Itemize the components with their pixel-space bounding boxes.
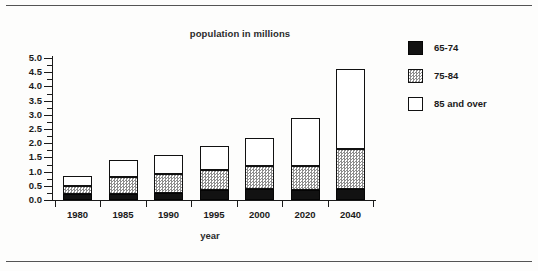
y-axis-tick bbox=[44, 115, 52, 116]
y-axis-tick bbox=[44, 186, 52, 187]
bar-segment-65-74 bbox=[291, 190, 320, 200]
y-axis-tick bbox=[44, 129, 52, 130]
y-axis-minor-tick bbox=[47, 122, 52, 123]
x-axis-tick-label: 1990 bbox=[146, 209, 192, 220]
x-axis-tick-label: 1980 bbox=[55, 209, 101, 220]
bar-segment-85-and-over bbox=[154, 155, 183, 175]
legend-item: 65-74 bbox=[408, 40, 532, 58]
y-axis-tick bbox=[44, 101, 52, 102]
bar-segment-65-74 bbox=[245, 189, 274, 200]
x-axis-tick bbox=[191, 200, 192, 207]
x-axis-tick bbox=[237, 200, 238, 207]
x-axis-tick bbox=[328, 200, 329, 207]
bar-segment-85-and-over bbox=[336, 69, 365, 149]
bar-segment-85-and-over bbox=[63, 176, 92, 186]
y-axis-tick-label: 2.0 bbox=[16, 138, 42, 148]
x-axis-tick bbox=[282, 200, 283, 207]
x-axis-tick-label: 2000 bbox=[237, 209, 283, 220]
y-axis-tick bbox=[44, 143, 52, 144]
bar-segment-85-and-over bbox=[245, 138, 274, 166]
legend-label: 85 and over bbox=[434, 98, 487, 109]
bar-segment-75-84 bbox=[63, 186, 92, 195]
bar-segment-75-84 bbox=[245, 166, 274, 189]
legend-label: 75-84 bbox=[434, 70, 458, 81]
y-axis-minor-tick bbox=[47, 65, 52, 66]
bottom-divider-rule bbox=[6, 261, 532, 262]
y-axis-minor-tick bbox=[47, 150, 52, 151]
chart-title: population in millions bbox=[140, 28, 340, 39]
y-axis-line bbox=[52, 56, 53, 201]
y-axis-tick-label: 4.0 bbox=[16, 81, 42, 91]
y-axis-tick-label: 1.0 bbox=[16, 167, 42, 177]
y-axis-tick bbox=[44, 200, 52, 201]
bar-segment-85-and-over bbox=[200, 146, 229, 170]
bar-1980 bbox=[63, 0, 92, 271]
legend-label: 65-74 bbox=[434, 42, 458, 53]
y-axis-minor-tick bbox=[47, 165, 52, 166]
y-axis-tick bbox=[44, 157, 52, 158]
bar-segment-65-74 bbox=[336, 189, 365, 200]
y-axis-tick-label: 3.5 bbox=[16, 96, 42, 106]
bar-segment-75-84 bbox=[109, 177, 138, 194]
top-divider-rule bbox=[6, 5, 532, 6]
bar-segment-85-and-over bbox=[109, 160, 138, 177]
y-axis-tick-label: 5.0 bbox=[16, 53, 42, 63]
x-axis-tick bbox=[100, 200, 101, 207]
bar-segment-65-74 bbox=[63, 194, 92, 200]
x-axis-tick-label: 1995 bbox=[191, 209, 237, 220]
legend-swatch-icon bbox=[408, 41, 423, 55]
chart-page: population in millions 0.00.51.01.52.02.… bbox=[0, 0, 538, 271]
bar-2020 bbox=[291, 0, 320, 271]
bar-segment-65-74 bbox=[154, 193, 183, 200]
x-axis-tick-label: 2020 bbox=[282, 209, 328, 220]
y-axis-tick bbox=[44, 58, 52, 59]
x-axis-tick bbox=[373, 200, 374, 207]
bar-segment-75-84 bbox=[291, 166, 320, 190]
y-axis-tick-label: 0.5 bbox=[16, 181, 42, 191]
y-axis-tick-label: 2.5 bbox=[16, 124, 42, 134]
x-axis-title: year bbox=[150, 230, 270, 241]
y-axis-minor-tick bbox=[47, 136, 52, 137]
x-axis-tick-label: 2040 bbox=[328, 209, 374, 220]
y-axis-tick-label: 4.5 bbox=[16, 67, 42, 77]
x-axis-tick-label: 1985 bbox=[100, 209, 146, 220]
y-axis-minor-tick bbox=[47, 193, 52, 194]
legend-swatch-icon bbox=[408, 97, 423, 111]
y-axis-minor-tick bbox=[47, 108, 52, 109]
bar-2040 bbox=[336, 0, 365, 271]
y-axis-minor-tick bbox=[47, 79, 52, 80]
bar-segment-75-84 bbox=[200, 170, 229, 190]
bar-segment-85-and-over bbox=[291, 118, 320, 166]
y-axis-minor-tick bbox=[47, 94, 52, 95]
y-axis-tick-label: 3.0 bbox=[16, 110, 42, 120]
legend-item: 75-84 bbox=[408, 68, 532, 86]
legend-item: 85 and over bbox=[408, 96, 532, 114]
y-axis-tick bbox=[44, 86, 52, 87]
x-axis-tick bbox=[55, 200, 56, 207]
bar-segment-75-84 bbox=[154, 174, 183, 192]
legend-swatch-icon bbox=[408, 69, 423, 83]
bar-segment-65-74 bbox=[109, 194, 138, 200]
y-axis-tick-label: 1.5 bbox=[16, 152, 42, 162]
y-axis-tick-label: 0.0 bbox=[16, 195, 42, 205]
x-axis-tick bbox=[146, 200, 147, 207]
bar-1985 bbox=[109, 0, 138, 271]
bar-segment-65-74 bbox=[200, 190, 229, 200]
y-axis-tick bbox=[44, 72, 52, 73]
y-axis-tick bbox=[44, 172, 52, 173]
bar-segment-75-84 bbox=[336, 149, 365, 189]
y-axis-minor-tick bbox=[47, 179, 52, 180]
x-axis-line bbox=[52, 200, 376, 201]
